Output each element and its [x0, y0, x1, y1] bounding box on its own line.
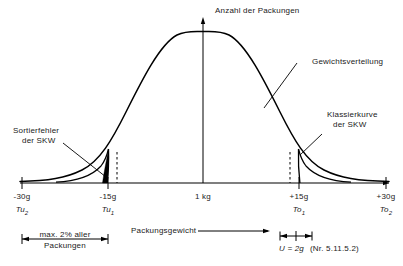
annotation-sorting-error-line1: Sortierfehler: [13, 126, 59, 136]
tick-symbol-to2-base: To: [380, 205, 389, 214]
leader-sorting-error: [63, 143, 106, 177]
weight-distribution-figure: Anzahl der Packungen Gewichtsverteilung …: [0, 0, 403, 266]
tick-symbol-to2-sub: 2: [389, 210, 393, 216]
y-axis: [201, 17, 205, 183]
tick-symbol-to1: To1: [293, 205, 306, 217]
bracket-uncertainty-reference: (Nr. 5.11.5.2): [310, 244, 359, 254]
x-axis: [20, 181, 389, 185]
tick-symbol-to1-sub: 1: [302, 210, 306, 216]
tick-label-to1-weight: +15g: [290, 192, 309, 202]
bracket-uncertainty: [280, 231, 312, 241]
tick-symbol-tu2-sub: 2: [25, 210, 29, 216]
annotation-sorting-error-line2: der SKW: [22, 136, 55, 146]
annotation-classifier-curve-line2: der SKW: [333, 120, 366, 130]
leader-classifier-curve: [300, 134, 322, 155]
tick-label-tu1-weight: -15g: [100, 192, 117, 202]
tick-symbol-tu1-base: Tu: [102, 205, 111, 214]
diagram-canvas: [0, 0, 403, 266]
bracket-uncertainty-label: U = 2g: [279, 244, 304, 254]
tick-symbol-tu2: Tu2: [16, 205, 29, 217]
weight-distribution-curve: [20, 31, 389, 181]
tick-symbol-tu1: Tu1: [102, 205, 115, 217]
tick-label-to2-weight: +30g: [377, 192, 396, 202]
x-label-arrow: [198, 229, 270, 233]
sorting-error-shade: [103, 149, 109, 183]
tick-symbol-tu1-sub: 1: [111, 210, 115, 216]
annotation-weight-distribution: Gewichtsverteilung: [312, 57, 383, 67]
tick-symbol-to2: To2: [380, 205, 393, 217]
y-axis-label: Anzahl der Packungen: [215, 6, 300, 16]
bracket-tolerance-line2: Packungen: [44, 241, 86, 251]
tick-symbol-to1-base: To: [293, 205, 302, 214]
x-axis-label: Packungsgewicht: [131, 226, 196, 236]
bracket-tolerance-line1: max. 2% aller: [39, 230, 90, 240]
leader-weight-distribution: [264, 63, 297, 108]
tick-symbol-tu2-base: Tu: [16, 205, 25, 214]
annotation-classifier-curve-line1: Klassierkurve: [327, 110, 378, 120]
tick-label-nominal-weight: 1 kg: [195, 192, 211, 202]
tick-label-tu2-weight: -30g: [14, 192, 31, 202]
